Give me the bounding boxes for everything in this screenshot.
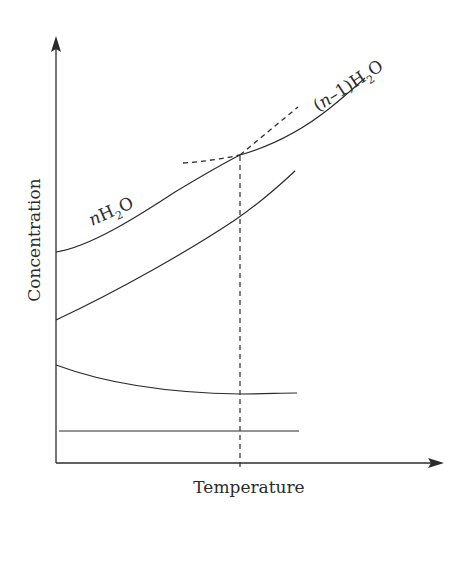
- svg-text:(n–1)H2O: (n–1)H2O: [309, 55, 389, 118]
- svg-text:nH2O: nH2O: [85, 192, 137, 233]
- x-axis-label: Temperature: [193, 477, 304, 497]
- axes: [56, 48, 432, 463]
- label-nh2o: nH2O: [85, 192, 137, 233]
- curve-nh2o: [56, 155, 240, 252]
- curve-2: [56, 171, 295, 320]
- curve-3: [56, 365, 297, 394]
- phase-diagram: Concentration Temperature nH2O (n–1)H2O: [0, 0, 468, 566]
- curves: [56, 78, 365, 431]
- y-axis-label: Concentration: [24, 178, 44, 301]
- tangent-right-dashed: [240, 107, 298, 155]
- label-n-minus-1-h2o: (n–1)H2O: [309, 55, 389, 118]
- label-nm1-rest: –1)H: [324, 67, 369, 106]
